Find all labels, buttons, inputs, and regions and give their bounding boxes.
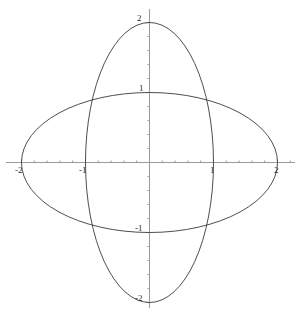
y-tick-label-neg2: -2 — [135, 294, 143, 303]
y-tick-label-2: 2 — [137, 14, 142, 23]
x-tick-label-neg2: -2 — [15, 166, 23, 175]
y-tick-label-neg1: -1 — [135, 224, 143, 233]
axes-group — [6, 9, 295, 308]
x-tick-label-neg1: -1 — [79, 166, 87, 175]
plot-canvas — [0, 0, 301, 315]
plot-figure: 2 1 -1 -2 -2 -1 1 2 — [0, 0, 301, 315]
x-tick-label-2: 2 — [274, 166, 279, 175]
y-tick-label-1: 1 — [139, 84, 144, 93]
x-tick-label-1: 1 — [210, 166, 215, 175]
